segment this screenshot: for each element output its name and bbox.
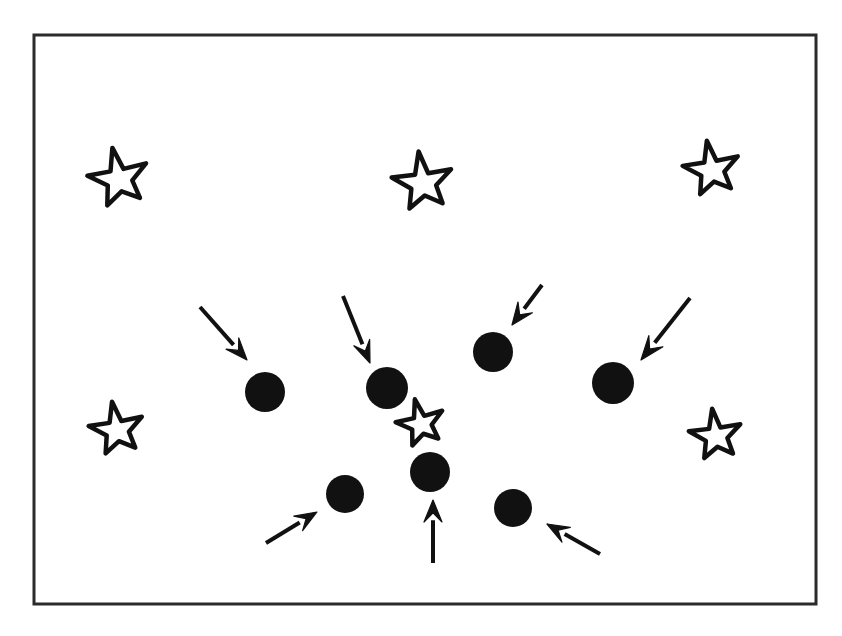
circle-7-marker (494, 489, 532, 527)
circle-1-marker (245, 372, 285, 412)
circle-3-marker (473, 332, 513, 372)
circle-6-marker (410, 452, 450, 492)
figure-container (0, 0, 842, 636)
circle-5-marker (326, 475, 364, 513)
figure-canvas (0, 0, 842, 636)
circle-4-marker (592, 362, 634, 404)
circle-2-marker (366, 367, 408, 409)
